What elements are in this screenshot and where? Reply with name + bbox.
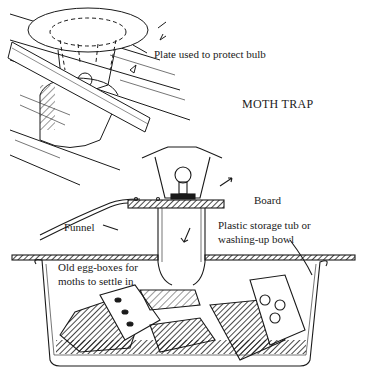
tub-label-line2: washing-up bowl	[218, 233, 294, 246]
top-inset-view	[8, 8, 190, 185]
diagram-title: MOTH TRAP	[242, 98, 314, 111]
section-view	[12, 147, 355, 366]
egg-boxes-label-line1: Old egg-boxes for	[58, 261, 138, 274]
tub-label-line1: Plastic storage tub or	[218, 219, 311, 232]
board-label: Board	[254, 194, 281, 207]
plate-label: Plate used to protect bulb	[154, 48, 266, 61]
moth-trap-diagram: Plate used to protect bulb MOTH TRAP Boa…	[0, 0, 367, 374]
egg-boxes-label-line2: moths to settle in	[58, 275, 133, 288]
funnel-label: Funnel	[64, 221, 95, 234]
